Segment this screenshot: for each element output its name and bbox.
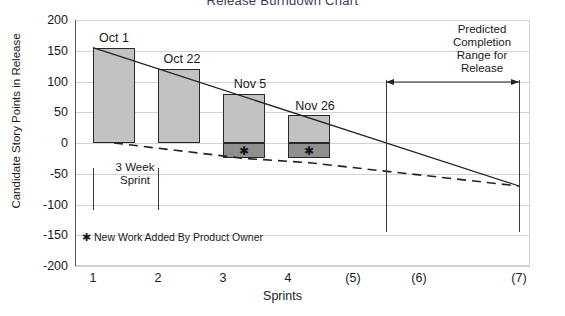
y-tick: -200 — [43, 259, 68, 273]
sprint-duration-line-2: Sprint — [100, 174, 170, 187]
y-axis-ticks: 200 150 100 50 0 -50 -100 -150 -200 — [22, 0, 68, 316]
x-tick-3: 3 — [220, 271, 227, 285]
gridline — [75, 266, 530, 267]
legend: ✱New Work Added By Product Owner — [82, 231, 263, 244]
y-tick: 150 — [47, 44, 68, 58]
y-tick: -100 — [43, 198, 68, 212]
prediction-range-line-3: Range for — [437, 49, 527, 62]
y-tick: 200 — [47, 13, 68, 27]
y-tick: 100 — [47, 75, 68, 89]
prediction-range-line-1: Predicted — [437, 23, 527, 36]
x-tick-2: 2 — [155, 271, 162, 285]
burndown-chart: Release Burndown Chart Candidate Story P… — [0, 0, 565, 316]
x-tick-5: (5) — [345, 271, 360, 285]
star-icon: ✱ — [82, 231, 91, 243]
legend-label: New Work Added By Product Owner — [94, 231, 263, 243]
y-tick: -150 — [43, 228, 68, 242]
sprint-duration-annotation: 3 Week Sprint — [100, 161, 170, 187]
y-tick: 0 — [61, 136, 68, 150]
sprint-duration-line-1: 3 Week — [100, 161, 170, 174]
x-tick-6: (6) — [411, 271, 426, 285]
x-axis-label: Sprints — [0, 289, 565, 303]
y-axis-label: Candidate Story Points in Release — [10, 21, 22, 221]
y-tick: -50 — [50, 167, 68, 181]
chart-title: Release Burndown Chart — [0, 0, 565, 8]
prediction-range-line-2: Completion — [437, 36, 527, 49]
x-tick-4: 4 — [285, 271, 292, 285]
prediction-range-annotation: Predicted Completion Range for Release — [437, 23, 527, 75]
x-tick-1: 1 — [90, 271, 97, 285]
x-tick-7: (7) — [511, 271, 526, 285]
y-tick: 50 — [54, 105, 68, 119]
prediction-range-line-4: Release — [437, 62, 527, 75]
